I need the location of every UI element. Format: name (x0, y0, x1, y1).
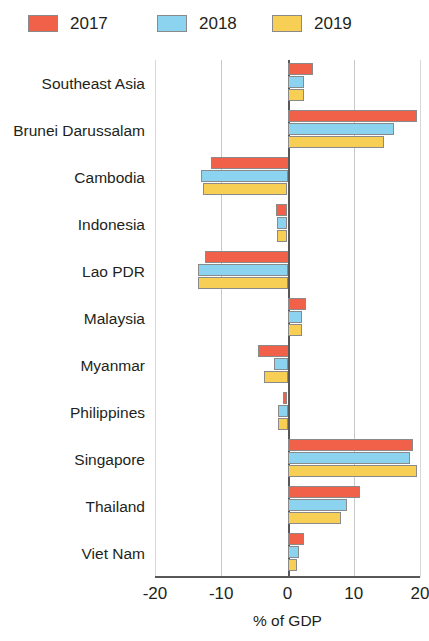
category-label: Brunei Darussalam (0, 107, 145, 154)
bar-group (155, 107, 420, 154)
x-tick-label: 10 (344, 583, 363, 605)
bar-2017 (283, 392, 288, 404)
bar-2017 (211, 157, 287, 169)
category-row: Lao PDR (0, 248, 426, 295)
category-row: Thailand (0, 483, 426, 530)
category-label: Cambodia (0, 154, 145, 201)
bar-2019 (288, 559, 298, 571)
legend-swatch-2017 (28, 15, 58, 32)
category-row: Southeast Asia (0, 60, 426, 107)
bar-2017 (288, 486, 361, 498)
bar-2018 (288, 499, 348, 511)
category-row: Cambodia (0, 154, 426, 201)
category-row: Indonesia (0, 201, 426, 248)
bar-2019 (288, 89, 305, 101)
bar-2017 (288, 439, 414, 451)
bar-group (155, 295, 420, 342)
legend-swatch-2018 (157, 15, 187, 32)
bar-2018 (288, 311, 303, 323)
category-label: Malaysia (0, 295, 145, 342)
category-row: Brunei Darussalam (0, 107, 426, 154)
category-row: Philippines (0, 389, 426, 436)
category-label: Thailand (0, 483, 145, 530)
bar-group (155, 436, 420, 483)
bar-2018 (288, 452, 411, 464)
bar-2017 (288, 533, 305, 545)
bar-2018 (201, 170, 287, 182)
category-label: Indonesia (0, 201, 145, 248)
x-tick-label: 0 (283, 583, 292, 605)
bar-group (155, 530, 420, 577)
category-row: Myanmar (0, 342, 426, 389)
bar-2019 (288, 324, 303, 336)
bar-group (155, 342, 420, 389)
bar-2019 (288, 512, 341, 524)
x-axis-title: % of GDP (155, 612, 420, 630)
legend-label-2017: 2017 (70, 15, 108, 32)
category-label: Philippines (0, 389, 145, 436)
bar-group (155, 60, 420, 107)
legend-label-2018: 2018 (199, 15, 237, 32)
bar-2019 (277, 230, 288, 242)
bar-2018 (288, 546, 300, 558)
bar-2017 (288, 110, 417, 122)
x-tick-label: 20 (411, 583, 429, 605)
bar-2018 (288, 123, 394, 135)
category-row: Viet Nam (0, 530, 426, 577)
bar-2019 (203, 183, 288, 195)
bar-2018 (288, 76, 305, 88)
bar-2018 (278, 405, 288, 417)
bar-2019 (198, 277, 287, 289)
bar-2019 (288, 465, 417, 477)
bar-2019 (264, 371, 287, 383)
category-label: Viet Nam (0, 530, 145, 577)
bar-2017 (258, 345, 288, 357)
chart-legend: 2017 2018 2019 (0, 0, 426, 46)
category-label: Singapore (0, 436, 145, 483)
x-tick-label: -20 (143, 583, 168, 605)
x-axis-tick-labels: -20-1001020 (0, 583, 426, 607)
bar-2018 (274, 358, 287, 370)
bar-group (155, 389, 420, 436)
bar-2017 (288, 298, 307, 310)
category-label: Myanmar (0, 342, 145, 389)
bar-2019 (278, 418, 288, 430)
bar-group (155, 483, 420, 530)
category-row: Singapore (0, 436, 426, 483)
category-label: Southeast Asia (0, 60, 145, 107)
bar-2018 (198, 264, 287, 276)
bar-2019 (288, 136, 384, 148)
bar-2018 (277, 217, 288, 229)
bar-2017 (205, 251, 288, 263)
bar-2017 (276, 204, 287, 216)
legend-swatch-2019 (272, 15, 302, 32)
bar-2017 (288, 63, 313, 75)
category-label: Lao PDR (0, 248, 145, 295)
bar-group (155, 201, 420, 248)
legend-entry-2018: 2018 (157, 13, 237, 33)
category-row: Malaysia (0, 295, 426, 342)
legend-label-2019: 2019 (314, 15, 352, 32)
legend-entry-2017: 2017 (28, 13, 108, 33)
x-tick-label: -10 (209, 583, 234, 605)
legend-entry-2019: 2019 (272, 13, 352, 33)
bar-group (155, 154, 420, 201)
bar-group (155, 248, 420, 295)
